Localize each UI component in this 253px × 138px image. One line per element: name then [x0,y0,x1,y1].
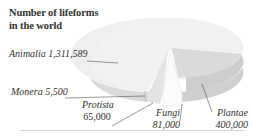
label-protista: Protista 65,000 [82,99,112,123]
label-monera: Monera 5,500 [11,86,68,98]
label-fungi-name: Fungi [150,107,180,119]
label-plantae-name: Plantae [210,107,248,119]
slice-monera [144,91,147,102]
bottom-rule [20,130,245,131]
leader-protista [112,103,153,126]
label-fungi: Fungi 81,000 [150,107,180,131]
label-protista-value: 65,000 [82,111,112,123]
label-animalia: Animalia 1,311,589 [9,48,87,60]
label-plantae: Plantae 400,000 [210,107,248,131]
leader-fungi [180,104,182,121]
label-protista-name: Protista [82,99,112,111]
